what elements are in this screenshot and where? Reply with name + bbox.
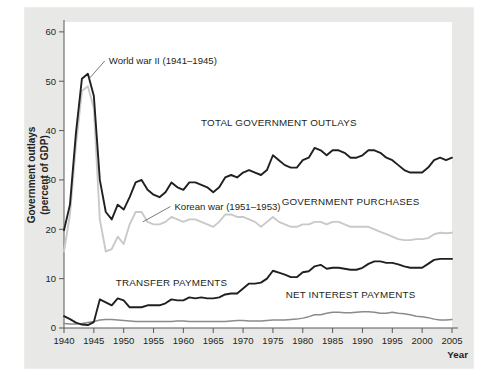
x-tick-label: 1945: [83, 335, 104, 346]
series-line-net-interest-payments: [64, 312, 452, 324]
x-tick-label: 1975: [262, 335, 283, 346]
x-tick-label: 1950: [113, 335, 134, 346]
figure-container: Government outlays (percent of GDP) 0102…: [0, 0, 496, 382]
y-tick-label: 60: [45, 26, 56, 37]
y-axis-title-line1: Government outlays: [26, 126, 37, 223]
x-axis-ticks: 1940194519501955196019651970197519801985…: [53, 328, 462, 346]
series-line-government-purchases: [64, 86, 452, 251]
x-axis-title: Year: [447, 349, 468, 360]
x-tick-label: 1955: [143, 335, 164, 346]
y-tick-label: 40: [45, 125, 56, 136]
y-tick-label: 30: [45, 174, 56, 185]
series-label-transfer-payments: TRANSFER PAYMENTS: [116, 277, 228, 288]
annotations-group: World war II (1941–1945)Korean war (1951…: [89, 55, 281, 222]
x-tick-label: 1940: [53, 335, 74, 346]
series-label-total-government-outlays: TOTAL GOVERNMENT OUTLAYS: [201, 117, 357, 128]
x-tick-label: 1995: [382, 335, 403, 346]
x-tick-label: 2005: [441, 335, 462, 346]
y-tick-label: 50: [45, 76, 56, 87]
series-label-net-interest-payments: NET INTEREST PAYMENTS: [286, 289, 416, 300]
y-tick-label: 0: [51, 322, 56, 333]
x-tick-label: 1985: [322, 335, 343, 346]
x-tick-label: 1980: [292, 335, 313, 346]
annotation-leader-line-1: [143, 207, 171, 222]
x-tick-label: 1990: [352, 335, 373, 346]
y-axis-ticks: 0102030405060: [45, 26, 64, 333]
x-tick-label: 2000: [412, 335, 433, 346]
annotation-leader-line-0: [89, 61, 105, 79]
chart-svg-wrapper: Government outlays (percent of GDP) 0102…: [0, 0, 496, 382]
y-tick-label: 20: [45, 224, 56, 235]
annotation-label-0: World war II (1941–1945): [109, 55, 217, 66]
x-tick-label: 1960: [173, 335, 194, 346]
y-tick-label: 10: [45, 273, 56, 284]
series-label-government-purchases: GOVERNMENT PURCHASES: [282, 196, 420, 207]
x-tick-label: 1965: [203, 335, 224, 346]
x-tick-label: 1970: [233, 335, 254, 346]
line-chart: Government outlays (percent of GDP) 0102…: [0, 0, 496, 382]
annotation-label-1: Korean war (1951–1953): [174, 201, 280, 212]
